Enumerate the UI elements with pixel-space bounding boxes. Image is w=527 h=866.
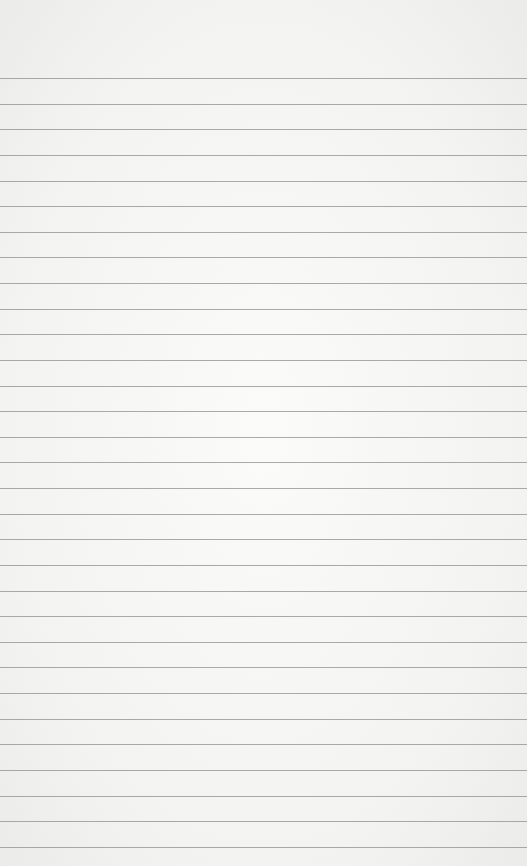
ruled-line xyxy=(0,257,527,258)
ruled-line xyxy=(0,78,527,79)
ruled-line xyxy=(0,847,527,848)
ruled-line xyxy=(0,309,527,310)
ruled-line xyxy=(0,411,527,412)
ruled-line xyxy=(0,155,527,156)
ruled-line xyxy=(0,667,527,668)
lined-paper xyxy=(0,0,527,866)
ruled-line xyxy=(0,104,527,105)
ruled-line xyxy=(0,642,527,643)
ruled-line xyxy=(0,796,527,797)
ruled-line xyxy=(0,334,527,335)
ruled-line xyxy=(0,821,527,822)
ruled-line xyxy=(0,462,527,463)
ruled-line xyxy=(0,693,527,694)
ruled-line xyxy=(0,386,527,387)
ruled-line xyxy=(0,616,527,617)
ruled-line xyxy=(0,181,527,182)
ruled-line xyxy=(0,770,527,771)
ruled-line xyxy=(0,591,527,592)
ruled-line xyxy=(0,129,527,130)
ruled-line xyxy=(0,232,527,233)
ruled-line xyxy=(0,539,527,540)
ruled-line xyxy=(0,719,527,720)
ruled-line xyxy=(0,206,527,207)
ruled-line xyxy=(0,360,527,361)
ruled-line xyxy=(0,488,527,489)
ruled-line xyxy=(0,744,527,745)
ruled-line xyxy=(0,565,527,566)
ruled-line xyxy=(0,437,527,438)
ruled-line xyxy=(0,514,527,515)
ruled-line xyxy=(0,283,527,284)
